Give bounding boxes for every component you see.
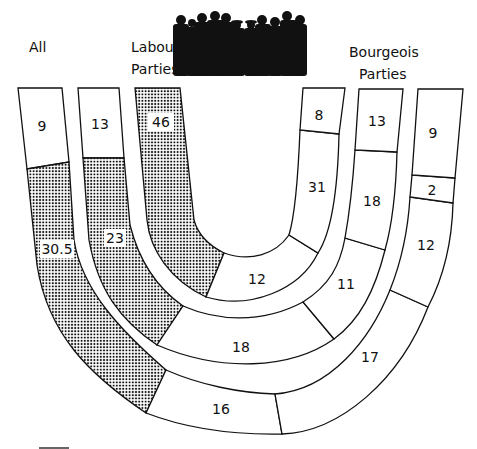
value-all-16: 16 bbox=[212, 401, 230, 417]
value-mid-18-right: 18 bbox=[363, 193, 381, 209]
heading-labour-line2: Parties bbox=[131, 61, 178, 77]
crowd-silhouette-icon bbox=[173, 11, 307, 76]
value-mid-11: 11 bbox=[337, 276, 355, 292]
value-inner-31: 31 bbox=[308, 179, 326, 195]
value-mid-23: 23 bbox=[106, 230, 124, 246]
value-inner-8: 8 bbox=[315, 107, 324, 123]
value-mid-13-left: 13 bbox=[91, 116, 109, 132]
heading-bourgeois-line1: Bourgeois bbox=[349, 44, 419, 60]
value-inner-12: 12 bbox=[248, 271, 266, 287]
value-all-9-right: 9 bbox=[429, 125, 438, 141]
value-mid-18-bottom: 18 bbox=[232, 339, 250, 355]
heading-bourgeois-line2: Parties bbox=[359, 66, 406, 82]
segment-inner-12 bbox=[206, 235, 318, 301]
value-all-2: 2 bbox=[428, 182, 437, 198]
segment-all-9-right bbox=[412, 89, 463, 178]
value-mid-13-right: 13 bbox=[368, 113, 386, 129]
heading-labour-line1: Labour bbox=[131, 39, 180, 55]
value-all-9-left: 9 bbox=[38, 118, 47, 134]
horseshoe-chart: 9 30.5 16 17 12 2 9 13 23 18 11 18 13 46… bbox=[0, 0, 477, 449]
heading-all: All bbox=[29, 39, 46, 55]
value-all-30-5: 30.5 bbox=[41, 241, 72, 257]
value-inner-46: 46 bbox=[152, 114, 170, 130]
value-all-17: 17 bbox=[361, 349, 379, 365]
value-all-12: 12 bbox=[417, 237, 435, 253]
